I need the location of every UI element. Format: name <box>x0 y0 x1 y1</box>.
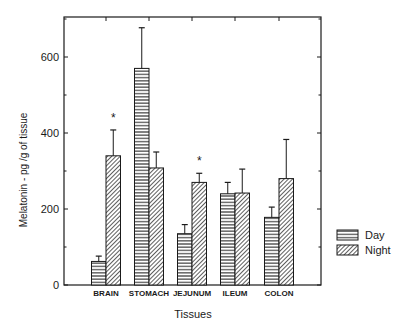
y-tick-label: 600 <box>41 51 59 63</box>
y-axis-title: Melatonin - pg /g of tissue <box>18 112 29 227</box>
x-tick-label: COLON <box>265 289 294 298</box>
day-swatch-icon <box>337 230 358 240</box>
bar-chart: ** 0200400600 BRAINSTOMACHJEJUNUMILEUMCO… <box>0 0 410 334</box>
legend-label-day: Day <box>365 229 385 241</box>
bar-night-stomach <box>149 152 164 285</box>
significance-asterisk: * <box>197 154 202 168</box>
legend-item-night[interactable]: Night <box>337 244 391 256</box>
y-tick-label: 200 <box>41 203 59 215</box>
bar-night-colon <box>279 139 294 285</box>
bar-day-ileum <box>221 182 236 285</box>
y-tick-label: 400 <box>41 127 59 139</box>
bar-day-colon <box>265 207 280 285</box>
bar-day-brain <box>92 256 107 285</box>
x-tick-label: JEJUNUM <box>173 289 212 298</box>
y-tick-label: 0 <box>53 279 59 291</box>
x-tick-label: ILEUM <box>223 289 248 298</box>
x-tick-label: BRAIN <box>93 289 119 298</box>
bar-night-ileum <box>235 169 250 285</box>
bar-day-jejunum <box>178 225 193 285</box>
significance-asterisk: * <box>111 111 116 125</box>
plot-area: ** <box>64 17 321 285</box>
x-axis-labels: BRAINSTOMACHJEJUNUMILEUMCOLON <box>93 289 293 298</box>
x-axis-title: Tissues <box>174 308 212 320</box>
bar-night-jejunum <box>192 173 207 285</box>
legend-item-day[interactable]: Day <box>337 229 385 241</box>
bar-night-brain <box>106 130 121 285</box>
bar-day-stomach <box>135 28 150 285</box>
legend: Day Night <box>337 229 391 256</box>
x-tick-label: STOMACH <box>129 289 170 298</box>
legend-label-night: Night <box>365 244 391 256</box>
night-swatch-icon <box>337 245 358 255</box>
